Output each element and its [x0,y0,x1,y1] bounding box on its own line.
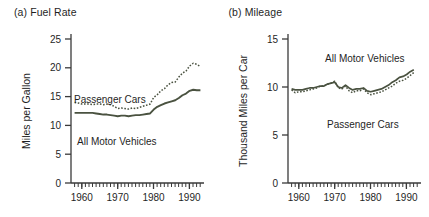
series-annotation-all-motor-vehicles: All Motor Vehicles [77,136,156,147]
mileage-plot: 0 5 10 15 [215,0,429,217]
y-axis-title: Thousand Miles per Car [237,54,249,167]
series-line-all-motor-vehicles [291,70,413,92]
series-annotation-passenger-cars: Passenger Cars [74,94,146,105]
x-tick-label: 1970 [107,192,130,203]
x-tick-label: 1970 [323,192,346,203]
y-tick-label: 20 [50,62,62,73]
y-tick-label: 25 [50,34,62,45]
y-tick-label: 15 [50,91,62,102]
y-tick-label: 10 [266,82,278,93]
y-tick-marks [65,39,71,183]
y-tick-label: 5 [272,130,278,141]
x-tick-label: 1980 [359,192,382,203]
x-tick-labels: 1960 1970 1980 1990 [71,192,201,203]
y-tick-label: 0 [55,178,61,189]
panel-fuel-rate: (a) Fuel Rate 0 5 10 15 20 25 [0,0,215,217]
figure: (a) Fuel Rate 0 5 10 15 20 25 [0,0,429,217]
panel-mileage: (b) Mileage 0 5 10 15 [215,0,429,217]
x-tick-labels: 1960 1970 1980 1990 [287,192,417,203]
y-tick-label: 15 [266,34,278,45]
x-tick-label: 1960 [287,192,310,203]
y-tick-labels: 0 5 10 15 [266,34,278,189]
y-tick-label: 5 [55,149,61,160]
series-annotation-passenger-cars: Passenger Cars [327,119,399,130]
y-axis-title: Miles per Gallon [20,73,32,149]
x-tick-label: 1960 [71,192,94,203]
y-tick-label: 10 [50,120,62,131]
x-tick-label: 1990 [395,192,418,203]
y-tick-marks [282,39,288,183]
series-annotation-all-motor-vehicles: All Motor Vehicles [325,53,404,64]
y-tick-labels: 0 5 10 15 20 25 [50,34,62,189]
fuel-rate-plot: 0 5 10 15 20 25 [0,0,215,217]
y-tick-label: 0 [272,178,278,189]
series-line-passenger-cars [291,73,413,95]
x-tick-label: 1980 [142,192,165,203]
x-tick-label: 1990 [178,192,201,203]
